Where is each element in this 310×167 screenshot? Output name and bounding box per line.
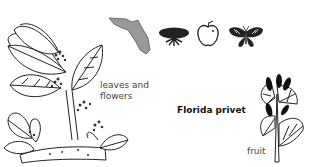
apple-icon — [196, 20, 220, 48]
butterfly-icon — [228, 24, 264, 48]
fruit-illustration — [255, 74, 310, 167]
shrub-icon — [157, 26, 191, 48]
leaves-and-flowers-line1: leaves and — [100, 80, 149, 91]
florida-map-icon — [108, 16, 153, 56]
leaves-and-flowers-line2: flowers — [100, 91, 149, 102]
species-title: Florida privet — [177, 105, 246, 115]
leaves-and-flowers-label: leaves and flowers — [100, 80, 149, 102]
